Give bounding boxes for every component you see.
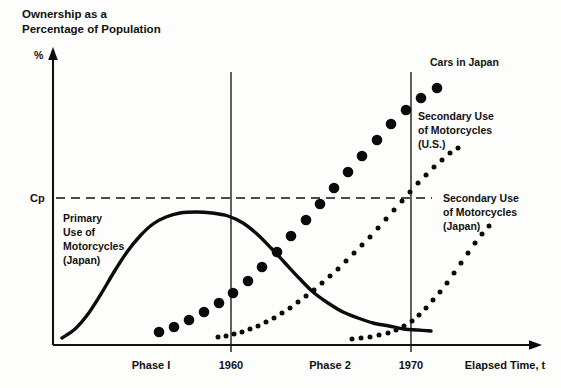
- reference-lines-group: [56, 72, 432, 345]
- annotation-primary-use: Primary Use of Motorcycles (Japan): [63, 212, 124, 266]
- x-axis-tick-label-2: Phase 2: [309, 359, 351, 371]
- series-2-datapoint-0: [216, 335, 221, 340]
- chart-title-line-1: Ownership as a: [22, 8, 108, 20]
- series-2-datapoint-13: [320, 281, 325, 286]
- series-2-datapoint-14: [328, 274, 333, 279]
- series-1-datapoint-6: [243, 276, 254, 287]
- x-axis-tick-label-1: 1960: [219, 359, 243, 371]
- series-0: [62, 212, 431, 338]
- chart-title-line-2: Percentage of Population: [22, 23, 161, 35]
- series-2-datapoint-20: [376, 226, 381, 231]
- x-axis-tick-labels: Phase I1960Phase 21970Elapsed Time, t: [132, 359, 546, 371]
- series-1-datapoint-1: [169, 322, 180, 333]
- annotation-secondary-use-us: Secondary Use of Motorcycles (U.S.): [418, 110, 494, 150]
- series-3-datapoint-6: [402, 324, 407, 329]
- series-2-datapoint-17: [352, 251, 357, 256]
- cp-axis-label: Cp: [30, 192, 45, 204]
- series-1-datapoint-18: [416, 93, 427, 104]
- annotation-cars-in-japan-line-1: Cars in Japan: [430, 56, 499, 68]
- annotation-cars-in-japan: Cars in Japan: [430, 56, 499, 68]
- series-1: [154, 83, 443, 338]
- series-3-datapoint-12: [445, 281, 450, 286]
- series-3-datapoint-11: [438, 290, 443, 295]
- series-2-datapoint-24: [408, 190, 413, 195]
- series-1-datapoint-11: [315, 199, 326, 210]
- series-1-datapoint-2: [184, 315, 195, 326]
- series-2-datapoint-19: [368, 235, 373, 240]
- series-3-datapoint-7: [410, 319, 415, 324]
- x-axis-arrowhead: [529, 340, 542, 350]
- series-2-datapoint-8: [280, 311, 285, 316]
- series-1-datapoint-14: [357, 151, 368, 162]
- series-3-datapoint-18: [487, 224, 492, 229]
- series-2-datapoint-4: [248, 327, 253, 332]
- series-2-datapoint-15: [336, 267, 341, 272]
- series-1-datapoint-10: [301, 215, 312, 226]
- series-1-datapoint-15: [372, 135, 383, 146]
- series-1-datapoint-5: [228, 288, 239, 299]
- annotation-secondary-use-japan-line-2: of Motorcycles: [443, 206, 517, 218]
- series-2-datapoint-23: [400, 199, 405, 204]
- series-3-datapoint-1: [359, 336, 364, 341]
- series-1-datapoint-4: [214, 298, 225, 309]
- series-3-datapoint-0: [350, 337, 355, 342]
- series-2-datapoint-25: [416, 181, 421, 186]
- annotation-primary-use-line-3: Motorcycles: [63, 240, 124, 252]
- series-1-datapoint-13: [343, 167, 354, 178]
- series-2-datapoint-30: [456, 146, 461, 151]
- annotation-secondary-use-japan-line-3: (Japan): [443, 220, 480, 232]
- annotation-primary-use-line-2: Use of: [63, 226, 96, 238]
- annotation-secondary-use-us-line-2: of Motorcycles: [418, 124, 492, 136]
- series-2-datapoint-5: [256, 324, 261, 329]
- series-1-datapoint-9: [286, 231, 297, 242]
- series-3-datapoint-5: [394, 328, 399, 333]
- annotation-primary-use-line-4: (Japan): [63, 254, 100, 266]
- series-1-datapoint-7: [257, 262, 268, 273]
- series-2-datapoint-7: [272, 316, 277, 321]
- series-1-datapoint-17: [401, 105, 412, 116]
- x-axis-tick-label-4: Elapsed Time, t: [465, 359, 546, 371]
- series-2-datapoint-26: [424, 173, 429, 178]
- series-3-datapoint-10: [431, 298, 436, 303]
- series-2-datapoint-12: [312, 288, 317, 293]
- y-axis-arrowhead: [48, 47, 58, 60]
- series-1-datapoint-3: [199, 307, 210, 318]
- series-2-datapoint-29: [448, 151, 453, 156]
- series-2-datapoint-21: [384, 217, 389, 222]
- series-2-datapoint-2: [232, 332, 237, 337]
- series-2-datapoint-1: [224, 334, 229, 339]
- annotation-secondary-use-japan-line-1: Secondary Use: [443, 192, 519, 204]
- series-3-datapoint-14: [459, 261, 464, 266]
- series-2-datapoint-10: [296, 300, 301, 305]
- series-2-datapoint-6: [264, 320, 269, 325]
- x-axis-tick-label-3: 1970: [399, 359, 423, 371]
- series-2-datapoint-11: [304, 294, 309, 299]
- annotation-secondary-use-us-line-3: (U.S.): [418, 138, 445, 150]
- series-3-datapoint-8: [417, 313, 422, 318]
- series-1-datapoint-16: [386, 119, 397, 130]
- chart-canvas: Ownership as a Percentage of Population …: [0, 0, 561, 388]
- series-3-datapoint-15: [466, 251, 471, 256]
- series-3-datapoint-13: [452, 271, 457, 276]
- series-3-datapoint-17: [480, 232, 485, 237]
- series-curve-primary-use: [62, 212, 431, 338]
- series-2-datapoint-3: [240, 330, 245, 335]
- series-1-datapoint-0: [154, 327, 165, 338]
- series-3-datapoint-16: [473, 241, 478, 246]
- series-3-datapoint-2: [368, 335, 373, 340]
- series-2-datapoint-28: [440, 158, 445, 163]
- series-2-datapoint-18: [360, 243, 365, 248]
- chart-figure: Ownership as a Percentage of Population …: [0, 0, 561, 388]
- x-axis-tick-label-0: Phase I: [132, 359, 171, 371]
- series-3-datapoint-9: [424, 306, 429, 311]
- series-1-datapoint-12: [329, 183, 340, 194]
- y-axis-unit-label: %: [34, 49, 44, 61]
- series-1-datapoint-8: [272, 247, 283, 258]
- annotation-secondary-use-us-line-1: Secondary Use: [418, 110, 494, 122]
- series-2-datapoint-9: [288, 306, 293, 311]
- series-2-datapoint-27: [432, 165, 437, 170]
- annotation-secondary-use-japan: Secondary Use of Motorcycles (Japan): [443, 192, 519, 232]
- series-1-datapoint-19: [432, 83, 443, 94]
- series-3-datapoint-4: [386, 331, 391, 336]
- series-3-datapoint-3: [377, 333, 382, 338]
